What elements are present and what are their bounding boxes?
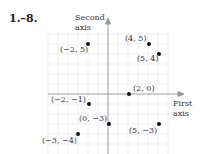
first-axis-arrow-icon xyxy=(178,92,184,97)
point-label: (−3, −4) xyxy=(42,136,77,145)
point-label: (−2, 5) xyxy=(60,45,88,54)
point-label: (4, 5) xyxy=(125,34,147,43)
first-axis-label-2: axis xyxy=(173,109,189,118)
second-axis-label-1: Second xyxy=(75,13,105,22)
first-axis-label-1: First xyxy=(173,99,192,108)
second-axis-arrow-icon xyxy=(106,18,111,24)
point-4-5 xyxy=(147,42,151,46)
point-5-neg3 xyxy=(157,122,161,126)
point-0-neg3 xyxy=(107,122,111,126)
point-2-0 xyxy=(127,92,131,96)
axes xyxy=(48,18,184,154)
second-axis-label-2: axis xyxy=(75,23,91,32)
point-label: (5, −3) xyxy=(129,126,157,135)
point-label: (5, 4) xyxy=(137,54,159,63)
coordinate-plane xyxy=(0,0,201,154)
point-label: (0, −3) xyxy=(79,114,107,123)
point-label: (2, 0) xyxy=(133,84,155,93)
point-label: (−2, −1) xyxy=(51,95,86,104)
point-neg2-neg1 xyxy=(87,102,91,106)
